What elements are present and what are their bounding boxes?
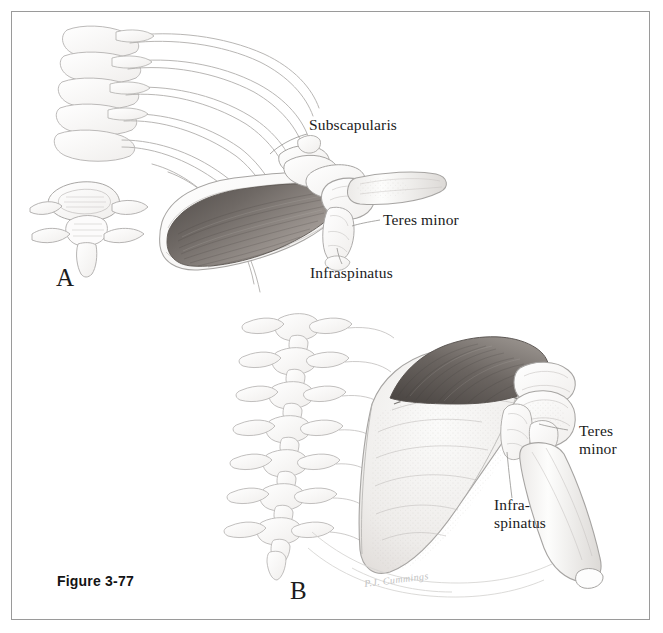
panel-b-vertebral-column bbox=[224, 314, 352, 580]
panel-b-art bbox=[224, 314, 603, 597]
figure-caption: Figure 3-77 bbox=[57, 573, 134, 589]
panel-letter-b: B bbox=[290, 577, 307, 605]
figure-page: Subscapularis Teres minor Infraspinatus … bbox=[0, 0, 663, 633]
panel-a-teres-infra-insertion bbox=[323, 207, 354, 270]
panel-a-art bbox=[30, 26, 446, 292]
label-teres-minor-panel-b: Teres minor bbox=[579, 422, 617, 459]
label-infraspinatus-panel-b: Infra- spinatus bbox=[494, 496, 546, 533]
label-teres-minor-panel-a: Teres minor bbox=[383, 211, 459, 229]
label-infraspinatus-panel-a: Infraspinatus bbox=[310, 264, 393, 282]
panel-a-vertebra-cross-section bbox=[30, 182, 148, 277]
figure-stage: Subscapularis Teres minor Infraspinatus … bbox=[12, 12, 649, 619]
anatomy-illustration bbox=[12, 12, 649, 619]
panel-letter-a: A bbox=[56, 264, 74, 292]
label-subscapularis-panel-a: Subscapularis bbox=[309, 116, 397, 134]
